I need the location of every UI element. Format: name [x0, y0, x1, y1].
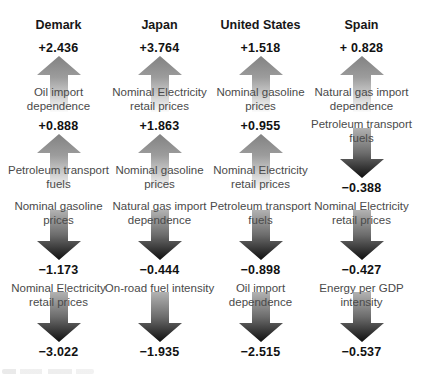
metric-value: +3.764	[140, 40, 180, 56]
metric-value: −0.427	[342, 262, 382, 278]
metric-value: −3.022	[39, 344, 79, 360]
arrow-box: Nominal Electricity retail prices	[210, 134, 311, 192]
cropped-caption-artifact	[2, 369, 94, 374]
metric-value: −0.898	[241, 262, 281, 278]
arrow-box: Oil import dependence	[8, 56, 109, 114]
metric-label: Oil import dependence	[204, 282, 317, 309]
metric-label: Oil import dependence	[2, 86, 115, 113]
arrow-box: Natural gas import dependence	[311, 56, 412, 114]
arrow-box: Energy per GDP intensity	[311, 282, 412, 342]
column-header-demark: Demark	[8, 14, 109, 40]
metric-label: Nominal Electricity retail prices	[305, 200, 418, 227]
metric-cell-japan-1: +3.764 Nominal Electricity retail prices	[109, 40, 210, 118]
arrow-box: Petroleum transport fuels	[311, 118, 412, 178]
arrow-box: Nominal gasoline prices	[8, 200, 109, 260]
arrow-box: Nominal Electricity retail prices	[109, 56, 210, 114]
arrow-box: Nominal Electricity retail prices	[8, 282, 109, 342]
metric-label: Nominal Electricity retail prices	[2, 282, 115, 309]
arrow-box: Petroleum transport fuels	[210, 200, 311, 260]
metric-label: Nominal Electricity retail prices	[103, 86, 216, 113]
down-arrow-icon	[138, 292, 182, 342]
metric-value: +1.518	[241, 40, 281, 56]
metric-label: Natural gas import dependence	[103, 200, 216, 227]
metric-cell-demark-4: Nominal Electricity retail prices −3.022	[8, 282, 109, 364]
arrow-box: On-road fuel intensity	[109, 282, 210, 342]
arrow-box: Natural gas import dependence	[109, 200, 210, 260]
metric-cell-spain-4: Energy per GDP intensity −0.537	[311, 282, 412, 364]
metric-value: +0.888	[39, 118, 79, 134]
metric-value: −0.537	[342, 344, 382, 360]
metric-value: −0.388	[342, 180, 382, 196]
metric-cell-united-states-2: +0.955 Nominal Electricity retail prices	[210, 118, 311, 200]
metric-cell-united-states-3: Petroleum transport fuels −0.898	[210, 200, 311, 282]
metric-value: −1.935	[140, 344, 180, 360]
metric-cell-demark-3: Nominal gasoline prices −1.173	[8, 200, 109, 282]
metric-cell-demark-1: +2.436 Oil import dependence	[8, 40, 109, 118]
metric-value: −1.173	[39, 262, 79, 278]
country-decomposition-figure: Demark Japan United States Spain +2.436 …	[0, 0, 424, 376]
metric-value: +1.863	[140, 118, 180, 134]
metric-cell-united-states-4: Oil import dependence −2.515	[210, 282, 311, 364]
arrow-box: Nominal Electricity retail prices	[311, 200, 412, 260]
arrow-box: Nominal gasoline prices	[210, 56, 311, 114]
arrow-box: Oil import dependence	[210, 282, 311, 342]
metric-value: + 0.828	[340, 40, 383, 56]
metric-cell-japan-3: Natural gas import dependence −0.444	[109, 200, 210, 282]
column-header-japan: Japan	[109, 14, 210, 40]
figure-grid: Demark Japan United States Spain +2.436 …	[0, 0, 424, 364]
metric-label: Petroleum transport fuels	[305, 118, 418, 145]
metric-cell-united-states-1: +1.518 Nominal gasoline prices	[210, 40, 311, 118]
metric-label: Petroleum transport fuels	[2, 164, 115, 191]
metric-value: +2.436	[39, 40, 79, 56]
metric-label: On-road fuel intensity	[103, 282, 216, 296]
metric-cell-spain-2: Petroleum transport fuels −0.388	[311, 118, 412, 200]
metric-value: +0.955	[241, 118, 281, 134]
arrow-box: Petroleum transport fuels	[8, 134, 109, 192]
arrow-box: Nominal gasoline prices	[109, 134, 210, 192]
metric-label: Natural gas import dependence	[305, 86, 418, 113]
metric-cell-demark-2: +0.888 Petroleum transport fuels	[8, 118, 109, 200]
metric-label: Nominal Electricity retail prices	[204, 164, 317, 191]
metric-value: −0.444	[140, 262, 180, 278]
metric-label: Nominal gasoline prices	[103, 164, 216, 191]
metric-cell-japan-2: +1.863 Nominal gasoline prices	[109, 118, 210, 200]
column-header-spain: Spain	[311, 14, 412, 40]
metric-cell-spain-3: Nominal Electricity retail prices −0.427	[311, 200, 412, 282]
metric-label: Nominal gasoline prices	[2, 200, 115, 227]
metric-cell-japan-4: On-road fuel intensity −1.935	[109, 282, 210, 364]
metric-label: Petroleum transport fuels	[204, 200, 317, 227]
metric-cell-spain-1: + 0.828 Natural gas import dependence	[311, 40, 412, 118]
metric-label: Energy per GDP intensity	[305, 282, 418, 309]
column-header-united-states: United States	[210, 14, 311, 40]
metric-label: Nominal gasoline prices	[204, 86, 317, 113]
metric-value: −2.515	[241, 344, 281, 360]
